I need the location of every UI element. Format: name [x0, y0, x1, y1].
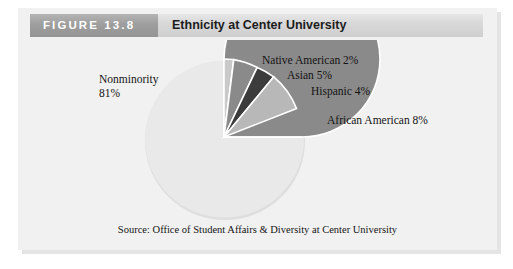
pie-chart-svg	[18, 40, 497, 250]
pie-label-asian: Asian 5%	[287, 68, 332, 82]
pie-chart	[18, 40, 497, 250]
pie-label-nonminority: Nonminority 81%	[99, 72, 158, 100]
chart-area: Nonminority 81% Native American 2% Asian…	[18, 40, 497, 250]
pie-label-nonminority-value: 81%	[99, 86, 158, 100]
figure-number-label: FIGURE 13.8	[43, 19, 135, 31]
source-note: Source: Office of Student Affairs & Dive…	[18, 224, 497, 235]
figure-root: FIGURE 13.8 Ethnicity at Center Universi…	[0, 0, 513, 269]
pie-label-hispanic: Hispanic 4%	[311, 84, 370, 98]
pie-label-native-american: Native American 2%	[262, 53, 358, 67]
pie-label-nonminority-name: Nonminority	[99, 72, 158, 86]
pie-label-african-american: African American 8%	[327, 113, 428, 127]
figure-title: Ethnicity at Center University	[172, 18, 346, 32]
